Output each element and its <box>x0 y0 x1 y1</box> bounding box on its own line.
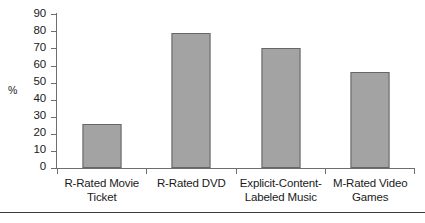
x-label-line-2: Games <box>327 190 415 204</box>
y-tick-label-0: 0 <box>16 161 46 173</box>
bottom-divider <box>0 212 425 213</box>
x-axis-labels: R-Rated Movie Ticket R-Rated DVD Explici… <box>57 176 415 216</box>
y-tick-label-40: 40 <box>16 93 46 105</box>
bar-r-rated-movie-ticket[interactable] <box>82 124 121 168</box>
y-tick-label-20: 20 <box>16 127 46 139</box>
y-tick-label-10: 10 <box>16 144 46 156</box>
x-label-line-2: Ticket <box>58 190 146 204</box>
bar-slot-explicit-content-labeled-music <box>236 14 326 168</box>
x-tick-mark-2 <box>236 169 237 174</box>
x-label-line-1: R-Rated DVD <box>148 176 236 190</box>
bar-slot-m-rated-video-games <box>326 14 416 168</box>
y-tick-label-60: 60 <box>16 59 46 71</box>
x-tick-mark-1 <box>146 169 147 174</box>
bar-slot-r-rated-movie-ticket <box>57 14 147 168</box>
bar-r-rated-dvd[interactable] <box>172 33 211 168</box>
y-tick-label-70: 70 <box>16 42 46 54</box>
x-label-line-1: Explicit-Content- <box>237 176 325 190</box>
y-tick-label-80: 80 <box>16 25 46 37</box>
x-label-line-1: M-Rated Video <box>327 176 415 190</box>
bar-explicit-content-labeled-music[interactable] <box>261 48 300 168</box>
x-label-line-2: Labeled Music <box>237 190 325 204</box>
x-label-r-rated-movie-ticket: R-Rated Movie Ticket <box>57 176 147 216</box>
x-tick-mark-0 <box>57 169 58 174</box>
x-tick-mark-3 <box>325 169 326 174</box>
plot-area <box>57 14 415 168</box>
x-label-r-rated-dvd: R-Rated DVD <box>147 176 237 216</box>
bar-m-rated-video-games[interactable] <box>351 72 390 168</box>
bar-chart-figure: % 90 80 70 60 50 40 30 20 10 0 <box>0 0 425 223</box>
y-tick-label-50: 50 <box>16 76 46 88</box>
x-label-m-rated-video-games: M-Rated Video Games <box>326 176 416 216</box>
bar-slot-r-rated-dvd <box>147 14 237 168</box>
x-label-line-1: R-Rated Movie <box>58 176 146 190</box>
x-label-explicit-content-labeled-music: Explicit-Content- Labeled Music <box>236 176 326 216</box>
y-tick-label-90: 90 <box>16 8 46 20</box>
y-tick-label-30: 30 <box>16 110 46 122</box>
x-tick-mark-4 <box>414 169 415 174</box>
